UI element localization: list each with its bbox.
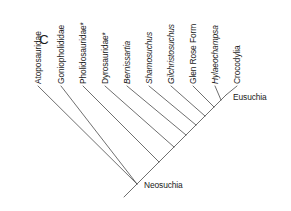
node-label-group: Eusuchia Neosuchia	[144, 92, 267, 190]
branch-bernissartia	[127, 86, 186, 135]
tip-label-shamosuchus: Shamosuchus	[144, 31, 154, 84]
tip-label-atoposauridae: Atoposauridae	[33, 31, 43, 84]
tip-label-bernissartia: Bernissartia	[122, 41, 132, 84]
tree-terminal-branches	[38, 86, 237, 184]
root-stem	[124, 184, 137, 197]
node-label-neosuchia: Neosuchia	[144, 180, 183, 190]
branch-hylaeochampsa	[215, 86, 221, 100]
tip-label-goniopholididae: Goniopholididae	[56, 25, 66, 84]
backbone-seg-4	[186, 125, 196, 135]
branch-goniopholididae	[61, 86, 137, 184]
branch-shamosuchus	[149, 86, 196, 125]
backbone-seg-2	[159, 147, 174, 162]
node-label-eusuchia: Eusuchia	[233, 92, 267, 102]
cladogram-canvas: C Atoposauridae	[0, 0, 291, 211]
branch-gilchristosuchus	[171, 86, 205, 116]
branch-glen-rose-form	[193, 86, 214, 107]
backbone-seg-6	[205, 107, 214, 116]
backbone-seg-8	[221, 95, 226, 100]
cladogram-figure: C Atoposauridae	[0, 0, 291, 211]
tip-label-group: Atoposauridae Goniopholididae Pholidosau…	[33, 21, 242, 84]
tip-label-glen-rose-form: Glen Rose Form	[188, 24, 198, 84]
backbone-seg-5	[196, 116, 205, 125]
backbone-seg-3	[174, 135, 186, 147]
backbone-seg-7	[214, 100, 221, 107]
tip-label-dyrosauridae: Dyrosauridae*	[100, 31, 110, 84]
tip-label-crocodylia: Crocodylia	[232, 45, 242, 84]
tip-label-pholidosauridae: Pholidosauridae*	[78, 21, 88, 84]
tip-label-hylaeochampsa: Hylaeochampsa	[210, 25, 220, 84]
tip-label-gilchristosuchus: Gilchristosuchus	[166, 23, 176, 84]
